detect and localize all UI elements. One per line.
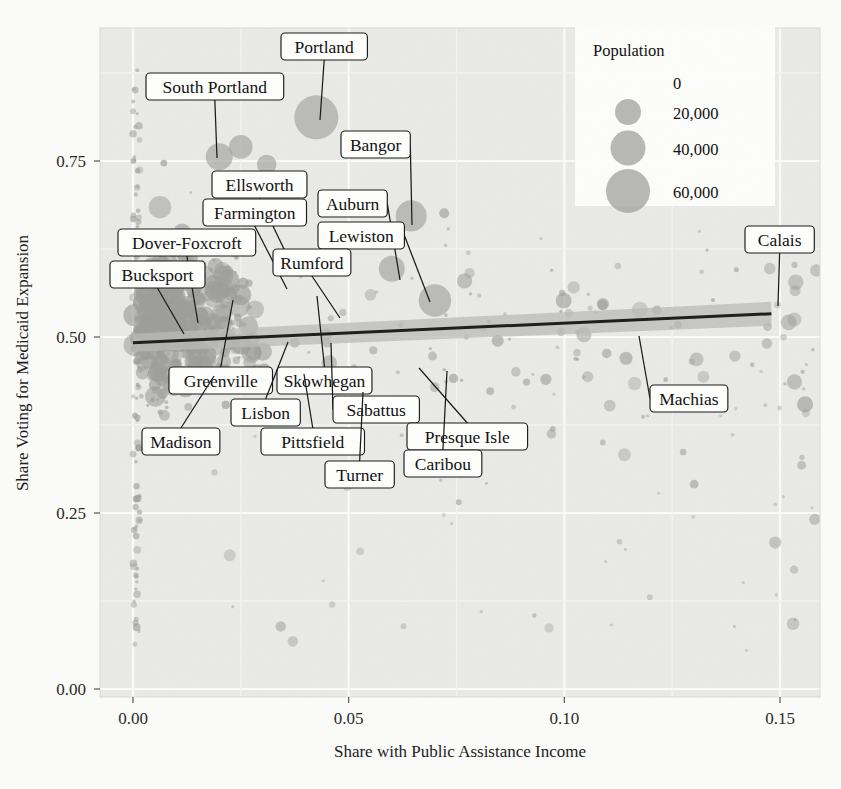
x-tick-label: 0.00 — [118, 709, 148, 728]
legend-bubble — [615, 99, 641, 125]
x-tick-label: 0.05 — [334, 709, 364, 728]
label-text: Sabattus — [347, 400, 406, 420]
x-tick-label: 0.15 — [765, 709, 795, 728]
legend-bubble — [606, 169, 650, 213]
legend-title: Population — [593, 41, 665, 60]
x-tick-label: 0.10 — [549, 709, 579, 728]
scatter-plot: 0.000.050.100.150.000.250.500.75 Share w… — [0, 0, 841, 789]
label-text: Caribou — [415, 454, 472, 474]
y-tick-label: 0.25 — [56, 504, 86, 523]
label-text: Turner — [336, 465, 383, 485]
label-text: Calais — [758, 230, 802, 250]
label-text: Greenville — [184, 371, 258, 391]
legend-bubble — [611, 131, 646, 166]
label-text: Pittsfield — [281, 432, 344, 452]
label-text: Auburn — [326, 194, 380, 214]
y-tick-label: 0.75 — [56, 152, 86, 171]
label-text: Skowhegan — [284, 371, 366, 391]
x-axis-title: Share with Public Assistance Income — [334, 742, 586, 761]
label-text: Lewiston — [329, 226, 394, 246]
label-text: Machias — [659, 389, 718, 409]
legend-label: 0 — [673, 74, 681, 93]
legend-label: 60,000 — [673, 183, 718, 202]
label-text: Portland — [295, 37, 355, 57]
label-text: Bangor — [350, 135, 402, 155]
label-text: Ellsworth — [225, 175, 293, 195]
chart-canvas: 0.000.050.100.150.000.250.500.75 Share w… — [0, 0, 841, 789]
label-text: Madison — [150, 432, 212, 452]
legend: Population020,00040,00060,000 — [575, 26, 775, 213]
label-text: Farmington — [214, 203, 296, 223]
legend-label: 40,000 — [673, 140, 718, 159]
label-text: South Portland — [163, 77, 268, 97]
legend-entry: 0 — [673, 74, 681, 93]
legend-label: 20,000 — [673, 104, 718, 123]
label-text: Dover-Foxcroft — [132, 233, 242, 253]
label-text: Rumford — [280, 253, 343, 273]
y-tick-label: 0.50 — [56, 328, 86, 347]
label-text: Lisbon — [241, 403, 290, 423]
y-tick-label: 0.00 — [56, 680, 86, 699]
y-axis-title: Share Voting for Medicaid Expansion — [13, 234, 32, 491]
label-text: Bucksport — [121, 265, 193, 285]
label-text: Presque Isle — [425, 427, 510, 447]
